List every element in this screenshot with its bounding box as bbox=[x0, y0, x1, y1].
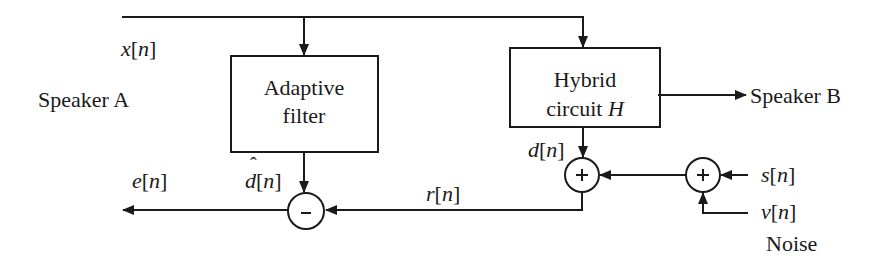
dhat-hat-accent: ˆ bbox=[250, 154, 257, 176]
r-signal-label: r[n] bbox=[426, 181, 460, 206]
adaptive-filter-label-2: filter bbox=[283, 103, 326, 128]
echo-canceller-diagram: Adaptive filter Hybrid circuit H Speaker… bbox=[0, 0, 894, 269]
hybrid-label-1: Hybrid bbox=[554, 67, 616, 92]
x-signal-label: x[n] bbox=[120, 36, 156, 61]
noise-label: Noise bbox=[766, 231, 817, 256]
d-signal-label: d[n] bbox=[528, 137, 565, 162]
plus-sign-echo bbox=[576, 169, 588, 181]
v-signal-label: v[n] bbox=[761, 199, 796, 224]
diagram-svg: Adaptive filter Hybrid circuit H Speaker… bbox=[0, 0, 894, 269]
s-signal-label: s[n] bbox=[761, 162, 795, 187]
plus-sign-noise bbox=[697, 169, 709, 181]
speaker-a-label: Speaker A bbox=[38, 87, 129, 112]
v-input-arrow bbox=[703, 193, 748, 213]
e-signal-label: e[n] bbox=[132, 168, 167, 193]
speaker-b-label: Speaker B bbox=[750, 83, 841, 108]
subtractor-junction bbox=[288, 193, 324, 229]
adaptive-filter-label-1: Adaptive bbox=[264, 75, 345, 100]
hybrid-label-2: circuit H bbox=[546, 96, 625, 121]
